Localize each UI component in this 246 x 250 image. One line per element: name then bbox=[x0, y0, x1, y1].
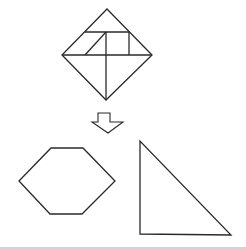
tangram-diagram bbox=[0, 0, 246, 250]
right-triangle-shape bbox=[140, 141, 231, 235]
inner-line bbox=[85, 32, 106, 55]
down-arrow-icon bbox=[92, 113, 123, 133]
square-inner-lines bbox=[62, 32, 152, 100]
source-square bbox=[62, 9, 152, 100]
hexagon-shape bbox=[19, 148, 115, 214]
